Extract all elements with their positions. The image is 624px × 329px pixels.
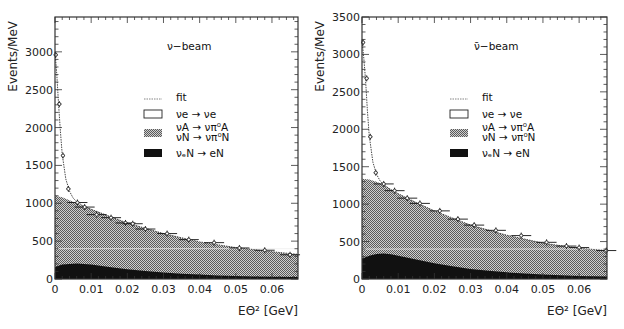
chart-nubar-beam: 00.010.020.030.040.050.06050010001500200… [310,0,624,329]
y-tick-label: 1500 [25,159,53,172]
legend: fitνe → νeνA → νπ⁰AνN → νπ⁰NνₑN → eN [144,91,229,159]
y-tick-label: 3000 [25,46,53,59]
x-tick-label: 0.04 [495,283,520,296]
y-tick-label: 2000 [332,123,360,136]
x-tick-label: 0.02 [422,283,447,296]
chart-panel-nu-beam: 00.010.020.030.040.050.06050010001500200… [0,0,312,329]
beam-label: ν−beam [167,40,211,52]
legend-nue-scatter: νe → νe [176,108,216,120]
y-tick-label: 3000 [332,48,360,61]
x-tick-label: 0.06 [567,283,592,296]
chart-nu-beam: 00.010.020.030.040.050.06050010001500200… [0,0,312,329]
y-axis-title: Events/MeV [6,20,20,91]
legend-fit: fit [482,91,493,103]
y-tick-label: 3500 [332,11,360,24]
y-tick-label: 2000 [25,122,53,135]
legend-fit: fit [176,91,187,103]
y-tick-label: 0 [353,273,360,286]
x-axis-title: EΘ² [GeV] [238,304,298,318]
x-tick-label: 0.01 [79,283,104,296]
y-tick-label: 2500 [332,86,360,99]
x-tick-label: 0.05 [224,283,249,296]
y-tick-label: 1500 [332,161,360,174]
chart-panel-nubar-beam: 00.010.020.030.040.050.06050010001500200… [310,0,622,329]
y-tick-label: 2500 [25,84,53,97]
legend-nuN-pi0: νN → νπ⁰N [176,131,229,143]
y-tick-label: 1000 [25,197,53,210]
y-tick-label: 500 [32,235,53,248]
beam-label: ν̄−beam [474,40,518,52]
y-tick-label: 0 [46,273,53,286]
y-tick-label: 1000 [332,198,360,211]
y-axis-title: Events/MeV [313,20,327,91]
legend: fitνe → νeνA → νπ⁰AνN → νπ⁰NνₑN → eN [450,91,535,159]
legend-nue-scatter: νe → νe [482,108,522,120]
x-tick-label: 0.06 [260,283,285,296]
y-tick-label: 500 [339,236,360,249]
x-tick-label: 0.03 [151,283,176,296]
x-tick-label: 0.02 [115,283,140,296]
x-tick-label: 0.04 [187,283,212,296]
x-axis-title: EΘ² [GeV] [547,304,607,318]
x-tick-label: 0.03 [458,283,483,296]
x-tick-label: 0.01 [386,283,411,296]
x-tick-label: 0.05 [531,283,556,296]
legend-nuN-pi0: νN → νπ⁰N [482,131,535,143]
legend-nueN-eN: νₑN → eN [176,147,224,159]
legend-nueN-eN: νₑN → eN [482,147,530,159]
